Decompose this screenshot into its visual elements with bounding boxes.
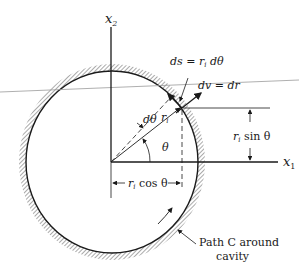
x2-axis-label: x2 (105, 12, 117, 28)
path-c-label-line1: Path C around (199, 237, 279, 248)
ri-sin-theta-label: ri sin θ (233, 131, 270, 144)
theta-label: θ (162, 142, 169, 153)
dtheta-label: dθ (143, 114, 157, 125)
dv-equation-label: dv = dr (198, 80, 240, 91)
ds-equation-label: ds = ri dθ (170, 56, 224, 69)
x1-axis-label: x1 (283, 155, 295, 171)
ri-label: ri (161, 112, 169, 125)
path-c-label-line2: cavity (216, 251, 249, 262)
cavity-path-diagram: x2 x1 ds = ri dθ dv = dr ri dθ θ ri sin … (0, 0, 299, 271)
ri-cos-theta-label: ri cos θ (128, 178, 168, 191)
